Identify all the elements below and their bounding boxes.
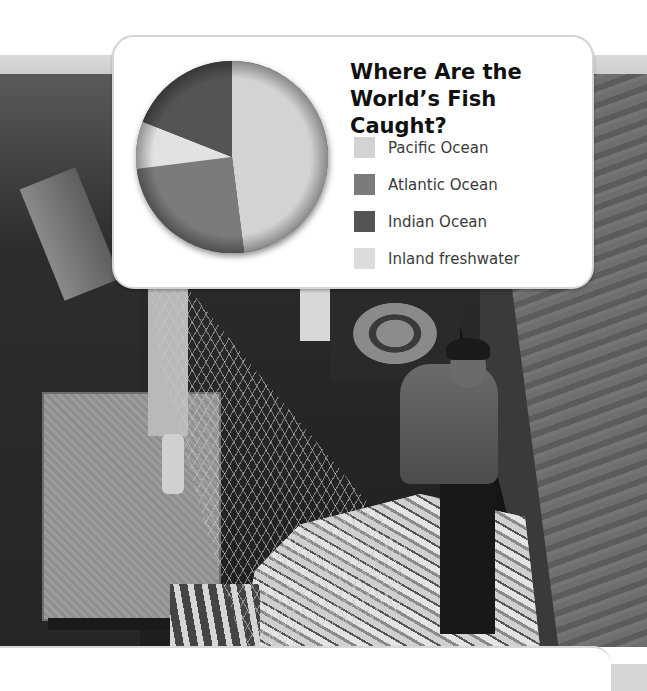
pie-chart — [132, 57, 332, 257]
chart-title: Where Are the World’s Fish Caught? — [350, 59, 590, 140]
legend-swatch-pacific — [354, 137, 375, 158]
legend-swatch-atlantic — [354, 174, 375, 195]
legend-label-indian: Indian Ocean — [388, 213, 487, 231]
chart-title-line-1: Where Are the — [350, 59, 590, 86]
legend-label-atlantic: Atlantic Ocean — [388, 176, 498, 194]
bottom-gray-strip — [611, 664, 647, 691]
legend-item-pacific: Pacific Ocean — [354, 129, 520, 166]
photo-fisherman-legs — [440, 484, 495, 634]
bottom-panel — [0, 646, 611, 691]
legend-item-inland: Inland freshwater — [354, 240, 520, 277]
photo-fisherman-hair — [446, 338, 490, 360]
pie-rim-shading — [136, 61, 328, 253]
legend-swatch-inland — [354, 248, 375, 269]
legend-item-indian: Indian Ocean — [354, 203, 520, 240]
legend-label-pacific: Pacific Ocean — [388, 139, 488, 157]
legend-label-inland: Inland freshwater — [388, 250, 520, 268]
photo-boot — [162, 434, 184, 494]
legend-swatch-indian — [354, 211, 375, 232]
chart-legend: Pacific Ocean Atlantic Ocean Indian Ocea… — [354, 129, 520, 277]
chart-card: Where Are the World’s Fish Caught? Pacif… — [112, 35, 594, 289]
legend-item-atlantic: Atlantic Ocean — [354, 166, 520, 203]
photo-fisherman-body — [400, 364, 498, 484]
